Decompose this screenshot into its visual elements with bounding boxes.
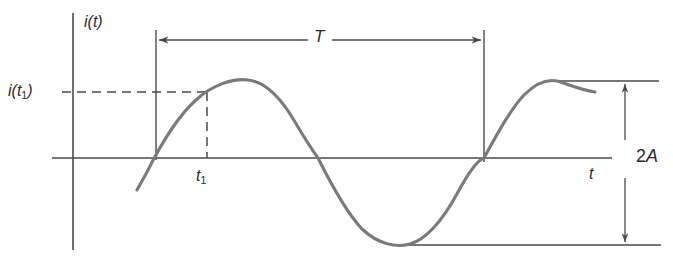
x-axis-label: t [589, 166, 593, 182]
y-axis-label: i(t) [84, 14, 103, 30]
peak-to-peak-label: 2A [636, 147, 658, 165]
waveform-figure: i(t) i(t1) t1 T t 2A [0, 0, 673, 264]
value-label: i(t1) [8, 83, 33, 99]
sine-curve [137, 80, 595, 246]
waveform-svg [0, 0, 673, 264]
period-label: T [314, 28, 324, 45]
time-marker-label: t1 [196, 168, 206, 184]
